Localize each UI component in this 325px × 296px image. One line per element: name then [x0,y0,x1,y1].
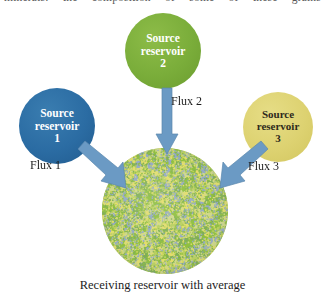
source-reservoir-1-line2: reservoir [35,120,79,132]
source-reservoir-3: Source reservoir 3 [243,92,313,162]
source-reservoir-3-number: 3 [275,133,281,145]
source-reservoir-1-line1: Source [40,107,74,119]
receiving-reservoir-speckle-texture [102,148,228,274]
flux-1-label: Flux 1 [30,158,61,173]
flux-3-label: Flux 3 [248,159,279,174]
source-reservoir-2-number: 2 [160,57,166,69]
source-reservoir-1-number: 1 [54,132,60,144]
top-running-text: minerals: the composition of some of the… [0,0,325,7]
source-reservoir-2-line1: Source [146,32,180,44]
figure-canvas: minerals: the composition of some of the… [0,0,325,296]
receiving-reservoir [102,148,228,274]
source-reservoir-1: Source reservoir 1 [19,88,95,164]
flux-2-label: Flux 2 [171,94,202,109]
source-reservoir-2: Source reservoir 2 [125,13,201,89]
source-reservoir-2-line2: reservoir [141,45,185,57]
figure-caption: Receiving reservoir with average [0,278,325,293]
